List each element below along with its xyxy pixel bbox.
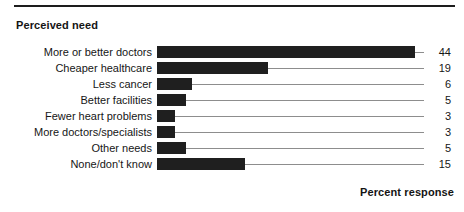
chart-figure: Perceived need More or better doctors44C… bbox=[0, 0, 464, 212]
bar-value-label: 44 bbox=[424, 44, 451, 60]
bar-value-label: 15 bbox=[424, 156, 451, 172]
bar-value-label: 5 bbox=[424, 140, 451, 156]
bar-value-label: 5 bbox=[424, 92, 451, 108]
top-rule-divider bbox=[14, 5, 455, 7]
leader-line bbox=[245, 164, 424, 165]
bar bbox=[157, 110, 175, 122]
bar bbox=[157, 142, 186, 154]
bar-value-label: 3 bbox=[424, 108, 451, 124]
category-label: None/don't know bbox=[0, 156, 152, 172]
bar bbox=[157, 78, 192, 90]
leader-line bbox=[415, 52, 424, 53]
bar-row: Fewer heart problems3 bbox=[0, 108, 464, 124]
bar-row: Cheaper healthcare19 bbox=[0, 60, 464, 76]
plot-area: More or better doctors44Cheaper healthca… bbox=[0, 44, 464, 172]
bar bbox=[157, 94, 186, 106]
category-label: More doctors/specialists bbox=[0, 124, 152, 140]
leader-line bbox=[192, 84, 424, 85]
bar-row: More or better doctors44 bbox=[0, 44, 464, 60]
bar-value-label: 19 bbox=[424, 60, 451, 76]
category-label: Less cancer bbox=[0, 76, 152, 92]
leader-line bbox=[175, 132, 424, 133]
bar bbox=[157, 158, 245, 170]
bar bbox=[157, 46, 415, 58]
bar-row: None/don't know15 bbox=[0, 156, 464, 172]
leader-line bbox=[175, 116, 424, 117]
bar-row: Better facilities5 bbox=[0, 92, 464, 108]
chart-title: Perceived need bbox=[16, 19, 98, 31]
leader-line bbox=[268, 68, 424, 69]
bar-value-label: 3 bbox=[424, 124, 451, 140]
bar-row: Other needs5 bbox=[0, 140, 464, 156]
category-label: Fewer heart problems bbox=[0, 108, 152, 124]
bar-row: Less cancer6 bbox=[0, 76, 464, 92]
category-label: Other needs bbox=[0, 140, 152, 156]
category-label: More or better doctors bbox=[0, 44, 152, 60]
leader-line bbox=[186, 148, 424, 149]
category-label: Better facilities bbox=[0, 92, 152, 108]
bar-value-label: 6 bbox=[424, 76, 451, 92]
bar-row: More doctors/specialists3 bbox=[0, 124, 464, 140]
bar bbox=[157, 62, 268, 74]
category-label: Cheaper healthcare bbox=[0, 60, 152, 76]
bar bbox=[157, 126, 175, 138]
x-axis-title: Percent response bbox=[360, 186, 454, 198]
leader-line bbox=[186, 100, 424, 101]
